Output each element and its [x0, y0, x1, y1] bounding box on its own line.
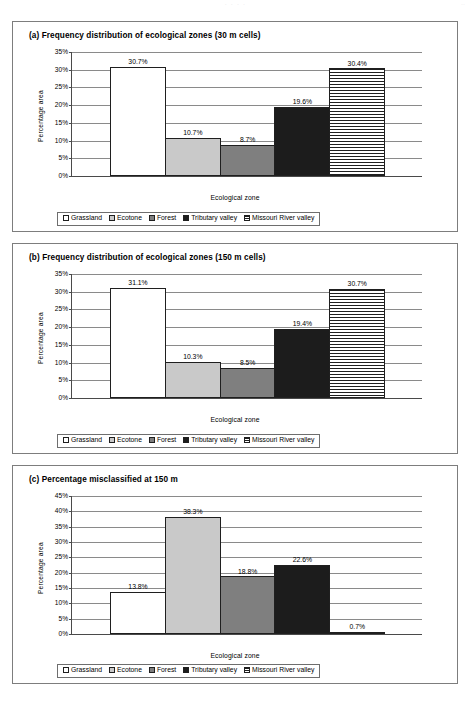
y-axis-tick-label: 10%: [55, 137, 68, 144]
figure-page: · · · · ·· (a) Frequency distribution of…: [0, 0, 471, 703]
legend-label: Tributary valley: [191, 215, 237, 222]
bar-value-label: 13.8%: [128, 584, 147, 591]
bar-value-label: 18.8%: [238, 569, 257, 576]
legend-item[interactable]: Forest: [149, 215, 176, 222]
y-axis-tick-label: 15%: [55, 585, 68, 592]
y-axis-tick-label: 5%: [58, 155, 68, 162]
chart-a-legend: GrasslandEcotoneForestTributary valleyMi…: [57, 212, 320, 226]
bar-missouri-river-valley[interactable]: 30.4%: [329, 68, 385, 176]
y-axis-tick-label: 0%: [58, 173, 68, 180]
legend-item[interactable]: Forest: [149, 667, 176, 674]
bar-forest[interactable]: 18.8%: [220, 576, 276, 634]
chart-a-x-axis-label: Ecological zone: [13, 194, 457, 201]
legend-swatch-icon: [149, 437, 155, 443]
bar-tributary-valley[interactable]: 19.6%: [274, 107, 330, 176]
legend-item[interactable]: Missouri River valley: [244, 437, 314, 444]
bar-value-label: 30.7%: [128, 59, 147, 66]
chart-b-plot-area: 0%5%10%15%20%25%30%35%31.1%10.3%8.5%19.4…: [71, 274, 422, 399]
chart-panel-b: (b) Frequency distribution of ecological…: [12, 243, 458, 454]
legend-label: Tributary valley: [191, 437, 237, 444]
legend-item[interactable]: Tributary valley: [183, 437, 237, 444]
y-axis-tick-label: 15%: [55, 342, 68, 349]
y-axis-tick: [69, 292, 72, 293]
bar-value-label: 22.6%: [293, 557, 312, 564]
legend-item[interactable]: Ecotone: [109, 437, 142, 444]
y-axis-tick: [69, 603, 72, 604]
legend-label: Forest: [157, 437, 176, 444]
legend-label: Grassland: [71, 667, 102, 674]
chart-b: Percentage area 0%5%10%15%20%25%30%35%31…: [13, 244, 457, 453]
bar-tributary-valley[interactable]: 22.6%: [274, 565, 330, 634]
y-axis-tick-label: 0%: [58, 395, 68, 402]
legend-swatch-icon: [109, 667, 115, 673]
legend-item[interactable]: Tributary valley: [183, 215, 237, 222]
y-axis-tick-label: 20%: [55, 324, 68, 331]
bar-value-label: 30.7%: [348, 281, 367, 288]
bar-grassland[interactable]: 13.8%: [110, 592, 166, 634]
bar-group: 31.1%10.3%8.5%19.4%30.7%: [110, 274, 385, 398]
legend-swatch-icon: [63, 437, 69, 443]
bar-value-label: 10.3%: [183, 354, 202, 361]
legend-label: Grassland: [71, 437, 102, 444]
legend-item[interactable]: Forest: [149, 437, 176, 444]
y-axis-tick-label: 5%: [58, 377, 68, 384]
legend-label: Forest: [157, 215, 176, 222]
y-axis-tick: [69, 398, 72, 399]
bar-ecotone[interactable]: 10.7%: [165, 138, 221, 176]
y-axis-tick-label: 30%: [55, 288, 68, 295]
y-axis-tick-label: 25%: [55, 306, 68, 313]
y-axis-tick: [69, 70, 72, 71]
bar-ecotone[interactable]: 10.3%: [165, 362, 221, 398]
legend-swatch-icon: [244, 667, 250, 673]
legend-label: Tributary valley: [191, 667, 237, 674]
bar-value-label: 30.4%: [348, 61, 367, 68]
bar-value-label: 8.5%: [240, 360, 256, 367]
legend-item[interactable]: Grassland: [63, 215, 102, 222]
y-axis-tick: [69, 158, 72, 159]
bar-group: 30.7%10.7%8.7%19.6%30.4%: [110, 52, 385, 176]
chart-a-y-axis-label: Percentage area: [37, 90, 44, 142]
y-axis-tick-label: 35%: [55, 49, 68, 56]
y-axis-tick: [69, 363, 72, 364]
legend-item[interactable]: Ecotone: [109, 667, 142, 674]
legend-swatch-icon: [183, 215, 189, 221]
legend-item[interactable]: Grassland: [63, 667, 102, 674]
y-axis-tick-label: 10%: [55, 359, 68, 366]
y-axis-tick-label: 30%: [55, 66, 68, 73]
legend-item[interactable]: Missouri River valley: [244, 215, 314, 222]
chart-a-plot-area: 0%5%10%15%20%25%30%35%30.7%10.7%8.7%19.6…: [71, 52, 422, 177]
chart-panel-c: (c) Percentage misclassified at 150 m Pe…: [12, 465, 458, 684]
scan-header-artifact: · · · ·: [0, 1, 471, 11]
y-axis-tick: [69, 274, 72, 275]
chart-b-y-axis-label: Percentage area: [37, 312, 44, 364]
legend-label: Ecotone: [117, 437, 142, 444]
bar-ecotone[interactable]: 38.3%: [165, 517, 221, 634]
chart-b-x-axis-label: Ecological zone: [13, 416, 457, 423]
bar-tributary-valley[interactable]: 19.4%: [274, 329, 330, 398]
y-axis-tick: [69, 496, 72, 497]
legend-label: Missouri River valley: [252, 667, 314, 674]
y-axis-tick-label: 25%: [55, 84, 68, 91]
chart-a: Percentage area 0%5%10%15%20%25%30%35%30…: [13, 22, 457, 231]
legend-item[interactable]: Missouri River valley: [244, 667, 314, 674]
bar-value-label: 31.1%: [128, 280, 147, 287]
bar-grassland[interactable]: 30.7%: [110, 67, 166, 176]
chart-c: Percentage area 0%5%10%15%20%25%30%35%40…: [13, 466, 457, 683]
legend-item[interactable]: Tributary valley: [183, 667, 237, 674]
bar-grassland[interactable]: 31.1%: [110, 288, 166, 398]
legend-item[interactable]: Grassland: [63, 437, 102, 444]
bar-value-label: 10.7%: [183, 130, 202, 137]
bar-forest[interactable]: 8.5%: [220, 368, 276, 398]
bar-missouri-river-valley[interactable]: 0.7%: [329, 632, 385, 634]
y-axis-tick: [69, 309, 72, 310]
y-axis-tick-label: 45%: [55, 493, 68, 500]
legend-item[interactable]: Ecotone: [109, 215, 142, 222]
y-axis-tick-label: 35%: [55, 271, 68, 278]
y-axis-tick: [69, 327, 72, 328]
legend-swatch-icon: [244, 215, 250, 221]
y-axis-tick-label: 25%: [55, 554, 68, 561]
y-axis-tick-label: 20%: [55, 102, 68, 109]
bar-forest[interactable]: 8.7%: [220, 145, 276, 176]
bar-missouri-river-valley[interactable]: 30.7%: [329, 289, 385, 398]
y-axis-tick: [69, 619, 72, 620]
